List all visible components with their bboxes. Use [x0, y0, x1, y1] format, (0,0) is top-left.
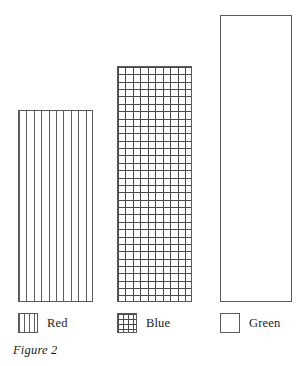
legend-swatch-green-icon	[220, 313, 240, 333]
figure-container: Red Blue Green Figure 2	[0, 0, 308, 366]
legend-label-green: Green	[249, 317, 280, 330]
legend-item-blue: Blue	[117, 310, 170, 336]
legend-swatch-red-icon	[18, 313, 38, 333]
legend-swatch-blue-icon	[117, 313, 137, 333]
chart-legend: Red Blue Green	[0, 310, 308, 340]
bar-green	[220, 15, 292, 302]
legend-item-red: Red	[18, 310, 68, 336]
bar-red	[18, 110, 93, 302]
legend-item-green: Green	[220, 310, 280, 336]
figure-caption: Figure 2	[13, 344, 58, 357]
legend-label-blue: Blue	[146, 317, 170, 330]
bar-chart-plot-area	[0, 0, 308, 302]
bar-blue	[117, 66, 192, 302]
legend-label-red: Red	[47, 317, 68, 330]
